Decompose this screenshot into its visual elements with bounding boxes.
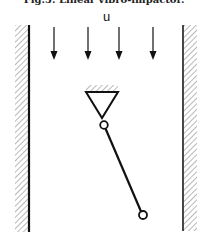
pendulum-rod [106, 129, 142, 212]
impactor-mass [139, 211, 147, 219]
arrowhead-icon [85, 51, 92, 60]
flow-arrows [51, 27, 157, 60]
hinge-support [86, 85, 118, 118]
support-triangle [86, 92, 118, 118]
arrowhead-icon [150, 51, 157, 60]
support-ground-hatch [86, 85, 118, 92]
arrowhead-icon [116, 51, 123, 60]
left-wall [15, 25, 29, 232]
right-wall [183, 25, 197, 231]
left-wall-hatch [15, 25, 28, 232]
arrowhead-icon [51, 51, 58, 60]
right-wall-hatch [184, 25, 197, 231]
vibro-impactor-diagram [0, 0, 208, 239]
pivot-joint [100, 121, 108, 129]
